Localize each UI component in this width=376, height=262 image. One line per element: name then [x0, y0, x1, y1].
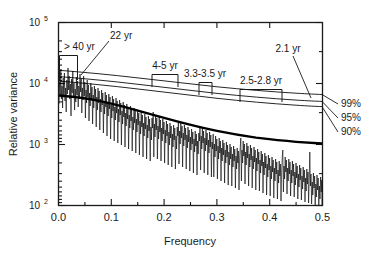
- x-axis-title: Frequency: [164, 235, 216, 247]
- x-tick-label-0: 0.0: [51, 211, 66, 223]
- y-tick-exp-1e3: 3: [44, 137, 48, 144]
- annotation-4-5yr-label: 4-5 yr: [152, 60, 178, 71]
- confidence-label-95: 95%: [341, 112, 361, 123]
- y-tick-exp-1e2: 2: [44, 198, 48, 205]
- y-tick-exp-1e5: 5: [44, 15, 48, 22]
- y-axis-title: Relative variance: [7, 72, 19, 156]
- annotation-2.5-2.8yr-label: 2.5-2.8 yr: [240, 75, 283, 86]
- annotation-3.3-3.5yr-label: 3.3-3.5 yr: [184, 68, 227, 79]
- annotation-22yr-label: 22 yr: [110, 30, 133, 41]
- y-tick-label-1e2: 10: [29, 200, 41, 211]
- spectral-analysis-figure: 10 5 10 4 10 3 10 2 Relative variance 0.…: [0, 0, 376, 262]
- chart-svg: 10 5 10 4 10 3 10 2 Relative variance 0.…: [0, 0, 376, 262]
- x-tick-label-3: 0.3: [209, 211, 224, 223]
- x-tick-label-4: 0.4: [262, 211, 277, 223]
- y-tick-label-1e5: 10: [29, 17, 41, 28]
- x-tick-label-2: 0.2: [156, 211, 171, 223]
- y-tick-exp-1e4: 4: [44, 76, 48, 83]
- x-tick-label-1: 0.1: [104, 211, 119, 223]
- annotation-gt40yr-label: > 40 yr: [64, 41, 96, 52]
- y-tick-label-1e3: 10: [29, 139, 41, 150]
- annotation-2.1yr-label: 2.1 yr: [275, 43, 301, 54]
- confidence-label-99: 99%: [341, 98, 361, 109]
- confidence-label-90: 90%: [341, 126, 361, 137]
- x-tick-label-5: 0.5: [315, 211, 330, 223]
- y-tick-label-1e4: 10: [29, 78, 41, 89]
